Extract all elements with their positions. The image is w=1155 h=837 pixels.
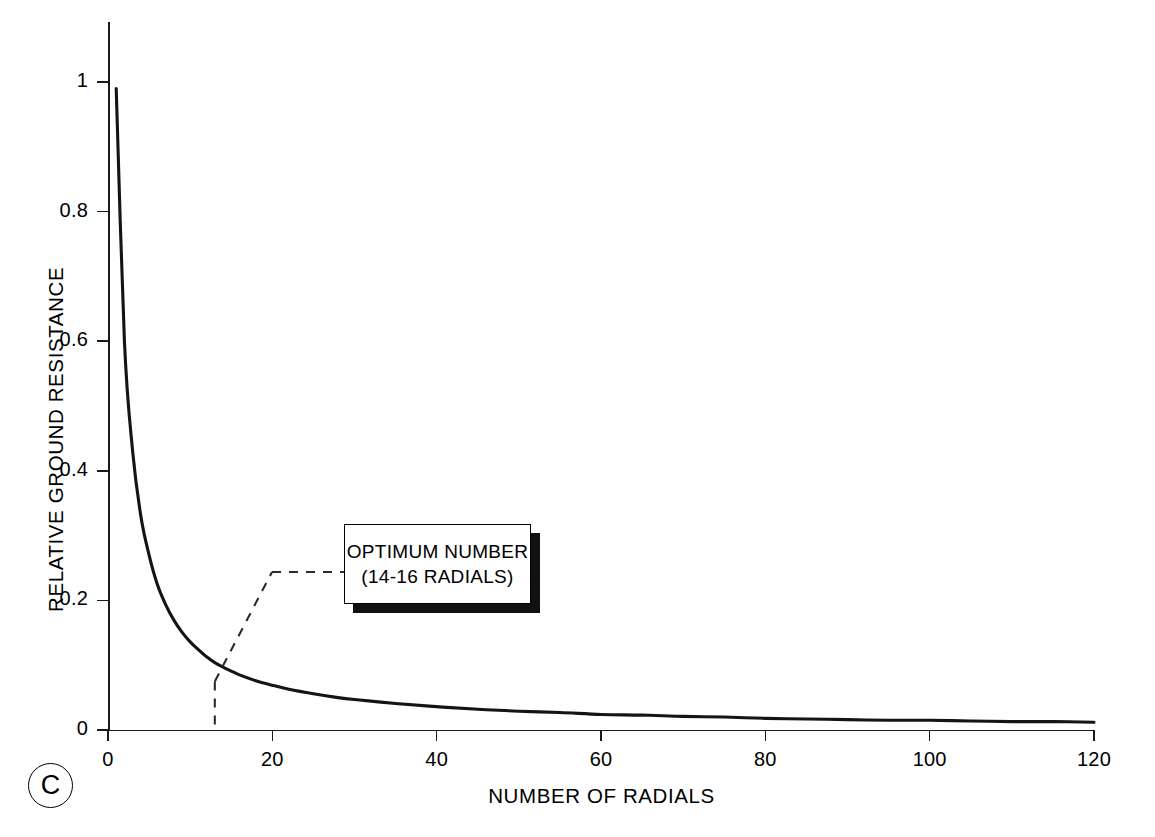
callout-line-2: (14-16 RADIALS) [361,564,513,589]
leader-line-diagonal [215,572,272,681]
figure-panel-c: 00.20.40.60.81 020406080100120 RELATIVE … [0,0,1155,837]
callout-line-1: OPTIMUM NUMBER [347,539,529,564]
data-curve-path [116,88,1094,722]
optimum-number-callout: OPTIMUM NUMBER (14-16 RADIALS) [344,524,531,604]
curve-svg [0,0,1155,837]
panel-label-c: C [28,763,73,808]
